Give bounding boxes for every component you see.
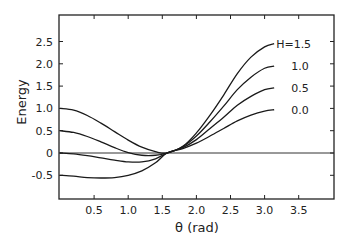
x-tick-label: 1.0	[119, 204, 137, 217]
y-tick-label: 1.5	[36, 80, 54, 93]
series-label: 1.0	[291, 60, 309, 73]
x-tick-label: 3.5	[290, 204, 308, 217]
series-label: 0.0	[291, 104, 309, 117]
curve-h-0-0	[60, 110, 274, 178]
y-tick-label: 1.0	[36, 102, 54, 115]
y-tick-label: 0.5	[36, 125, 54, 138]
curve-h-1-5	[60, 44, 274, 154]
series-label: 0.5	[291, 82, 309, 95]
x-tick-label: 3.0	[256, 204, 274, 217]
data-curves	[60, 44, 274, 178]
y-tick-label: 2.5	[36, 36, 54, 49]
x-tick-label: 0.5	[85, 204, 103, 217]
curve-h-0-5	[60, 88, 274, 162]
curve-h-1-0	[60, 66, 274, 156]
energy-vs-theta-chart: 0.51.01.52.02.53.03.52.52.01.51.00.50-0.…	[0, 0, 350, 238]
x-axis-label: θ (rad)	[175, 220, 219, 235]
y-tick-label: -0.5	[32, 169, 53, 182]
series-label: H=1.5	[276, 38, 311, 51]
y-tick-label: 2.0	[36, 58, 54, 71]
x-tick-label: 2.5	[222, 204, 240, 217]
x-tick-label: 2.0	[188, 204, 206, 217]
y-tick-label: 0	[46, 147, 53, 160]
y-axis-label: Energy	[14, 79, 29, 125]
x-tick-label: 1.5	[154, 204, 172, 217]
series-labels: H=1.51.00.50.0	[276, 38, 311, 117]
